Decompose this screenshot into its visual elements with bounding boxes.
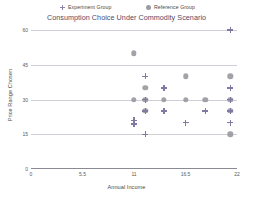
data-point: [227, 108, 233, 114]
y-axis-tick-label: 45: [22, 62, 28, 67]
y-axis-tick-label: 0: [25, 167, 28, 172]
chart-root: Experiment Group Reference Group Consump…: [0, 0, 253, 198]
gridline: [31, 30, 237, 31]
y-axis-tick-label: 60: [22, 28, 28, 33]
chart-legend: Experiment Group Reference Group: [0, 2, 253, 13]
y-axis-title: Price Range Chosen: [7, 49, 13, 141]
data-point: [228, 132, 233, 137]
chart-title: Consumption Choice Under Commodity Scena…: [0, 13, 253, 22]
data-point: [161, 85, 167, 91]
x-axis-tick-label: 16.5: [181, 172, 191, 177]
data-point: [202, 108, 208, 114]
legend-item-reference-group[interactable]: Reference Group: [146, 2, 195, 13]
plus-marker-icon: [60, 5, 65, 10]
x-axis-tick-label: 5.5: [79, 172, 86, 177]
data-point: [142, 97, 148, 103]
data-point: [183, 74, 188, 79]
plot-area: 60453015005.51116.522: [31, 30, 237, 169]
data-point: [183, 120, 189, 126]
x-axis-line: [31, 168, 237, 169]
legend-item-experiment-group[interactable]: Experiment Group: [60, 2, 111, 13]
x-axis-title: Annual Income: [0, 184, 253, 190]
data-point: [143, 85, 148, 90]
gridline: [31, 65, 237, 66]
data-point: [131, 97, 136, 102]
data-point: [142, 131, 148, 137]
data-point: [131, 50, 136, 55]
x-axis-tick-label: 22: [234, 172, 240, 177]
x-axis-tick-label: 0: [30, 172, 33, 177]
data-point: [161, 97, 166, 102]
gridline: [31, 134, 237, 135]
y-axis-tick-label: 15: [22, 132, 28, 137]
legend-label-experiment-group: Experiment Group: [68, 2, 111, 13]
y-axis-tick-label: 30: [22, 97, 28, 102]
legend-label-reference-group: Reference Group: [154, 2, 195, 13]
data-point: [183, 97, 188, 102]
data-point: [228, 74, 233, 79]
data-point: [202, 97, 207, 102]
data-point: [131, 121, 137, 127]
data-point: [227, 27, 233, 33]
data-point: [227, 85, 233, 91]
data-point: [142, 108, 148, 114]
data-point: [161, 108, 167, 114]
circle-marker-icon: [146, 5, 151, 10]
data-point: [227, 97, 233, 103]
x-axis-tick-label: 11: [131, 172, 136, 177]
data-point: [227, 120, 233, 126]
data-point: [142, 73, 148, 79]
